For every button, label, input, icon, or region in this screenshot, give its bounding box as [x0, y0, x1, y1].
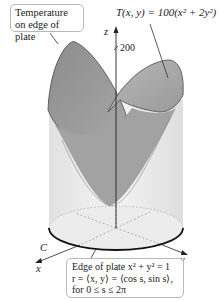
surface-equation-label: T(x, y) = 100(x² + 2y²) [116, 6, 216, 18]
callout-bottom-line1: Edge of plate x² + y² = 1 [72, 261, 178, 273]
x-axis-label: x [36, 263, 41, 274]
z-axis-label: z [104, 26, 108, 37]
surface-diagram [0, 0, 219, 301]
callout-top-line2: on edge of plate [15, 19, 79, 43]
callout-plate-edge: Edge of plate x² + y² = 1 r = ⟨x, y⟩ = ⟨… [66, 258, 184, 298]
callout-bottom-line3: for 0 ≤ s ≤ 2π [72, 284, 178, 296]
callout-top-line1: Temperature [15, 7, 79, 19]
callout-bottom-line2: r = ⟨x, y⟩ = ⟨cos s, sin s⟩, [72, 273, 178, 285]
z-tick-200: 200 [120, 42, 135, 53]
y-axis [160, 244, 185, 254]
curve-c-label: C [40, 242, 47, 253]
callout-temperature-edge: Temperature on edge of plate [10, 4, 84, 32]
